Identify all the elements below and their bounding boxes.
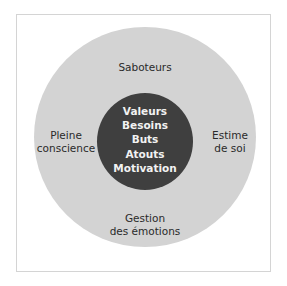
outer-label-bottom-line-1: Gestion <box>85 212 205 225</box>
outer-label-right: Estime de soi <box>192 129 268 155</box>
outer-label-left: Pleine conscience <box>28 129 104 155</box>
outer-label-left-line-2: conscience <box>28 142 104 155</box>
inner-core-item: Motivation <box>97 161 193 175</box>
inner-core-item: Besoins <box>97 118 193 132</box>
inner-core-item: Atouts <box>97 147 193 161</box>
inner-core-item: Valeurs <box>97 104 193 118</box>
inner-core-list: Valeurs Besoins Buts Atouts Motivation <box>97 104 193 175</box>
outer-label-top-line-1: Saboteurs <box>95 61 195 74</box>
outer-label-right-line-1: Estime <box>192 129 268 142</box>
inner-core-item: Buts <box>97 132 193 146</box>
outer-label-bottom: Gestion des émotions <box>85 212 205 238</box>
outer-label-right-line-2: de soi <box>192 142 268 155</box>
outer-label-top: Saboteurs <box>95 61 195 74</box>
outer-label-left-line-1: Pleine <box>28 129 104 142</box>
outer-label-bottom-line-2: des émotions <box>85 225 205 238</box>
